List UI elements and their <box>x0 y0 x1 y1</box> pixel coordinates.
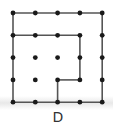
grid-dot <box>55 33 60 38</box>
grid-dot <box>33 100 38 105</box>
grid-dot <box>78 33 83 38</box>
grid-dot <box>78 100 83 105</box>
grid-dot <box>100 11 105 16</box>
grid-dot <box>11 100 16 105</box>
grid-dot <box>33 33 38 38</box>
grid-dot <box>55 11 60 16</box>
grid-dot <box>11 11 16 16</box>
grid-dot <box>55 55 60 60</box>
grid-dot <box>78 11 83 16</box>
grid-dot <box>11 55 16 60</box>
grid-dot <box>100 33 105 38</box>
grid-dot <box>78 55 83 60</box>
grid-dot <box>100 55 105 60</box>
grid-dot <box>78 78 83 83</box>
grid-dot <box>100 78 105 83</box>
grid-dot <box>11 78 16 83</box>
grid-dot <box>33 55 38 60</box>
figure-label: D <box>0 109 113 125</box>
grid-dot <box>11 33 16 38</box>
grid-dot <box>33 11 38 16</box>
grid-dot <box>55 100 60 105</box>
grid-dot <box>100 100 105 105</box>
grid-dot <box>55 78 60 83</box>
grid-dot <box>33 78 38 83</box>
